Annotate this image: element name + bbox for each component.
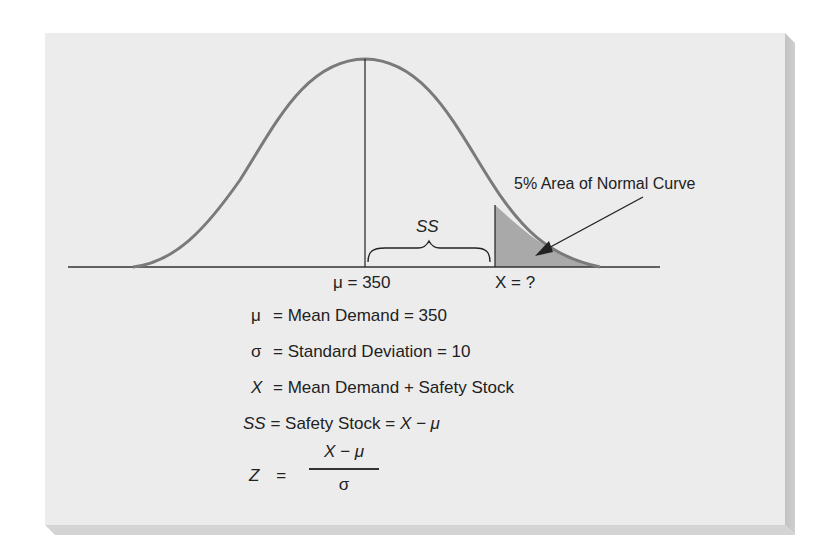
callout-label: 5% Area of Normal Curve [514, 175, 696, 192]
definition-symbol: X [251, 378, 273, 398]
definition-symbol: SS [243, 414, 266, 433]
z-equals: = [276, 466, 286, 485]
definition-tail: X − μ [400, 414, 440, 433]
shaded-tail-area [495, 205, 600, 267]
definition-ss: SS = Safety Stock = X − μ [243, 414, 440, 434]
definition-text: = Mean Demand = 350 [273, 306, 447, 325]
definition-symbol: μ [251, 306, 273, 326]
ss-label: SS [416, 217, 439, 236]
normal-curve-diagram: SS 5% Area of Normal Curve μ = 350 X = ? [0, 0, 823, 558]
definition-mu: μ= Mean Demand = 350 [251, 306, 447, 326]
definition-sigma: σ= Standard Deviation = 10 [251, 342, 471, 362]
callout-arrow [543, 197, 643, 251]
fraction-bar [309, 468, 379, 470]
x-axis-label: X = ? [495, 273, 535, 292]
definition-text: = Mean Demand + Safety Stock [273, 378, 514, 397]
definition-text: = Standard Deviation = 10 [273, 342, 471, 361]
mu-axis-label: μ = 350 [333, 273, 391, 292]
z-formula-lhs: Z = [249, 466, 286, 486]
z-numerator: X − μ [309, 442, 379, 462]
definition-x: X= Mean Demand + Safety Stock [251, 378, 514, 398]
z-symbol: Z [249, 466, 259, 485]
z-denominator: σ [309, 475, 379, 495]
definition-text: = Safety Stock = [270, 414, 399, 433]
ss-brace [368, 241, 490, 262]
definition-symbol: σ [251, 342, 273, 362]
